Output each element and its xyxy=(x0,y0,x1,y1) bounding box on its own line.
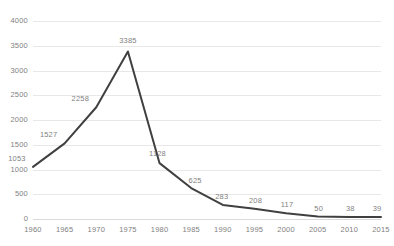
y-tick-label-3500: 3500 xyxy=(0,41,28,50)
y-tick-label-2500: 2500 xyxy=(0,90,28,99)
x-tick-label-1970: 1970 xyxy=(79,225,113,234)
data-label-1990: 283 xyxy=(207,192,237,201)
x-tick-label-1965: 1965 xyxy=(48,225,82,234)
data-label-1995: 208 xyxy=(240,196,270,205)
x-tick-label-2005: 2005 xyxy=(301,225,335,234)
x-tick-label-1975: 1975 xyxy=(111,225,145,234)
x-tick-label-2000: 2000 xyxy=(269,225,303,234)
x-tick-label-1985: 1985 xyxy=(174,225,208,234)
data-label-1975: 3385 xyxy=(113,36,143,45)
y-tick-label-3000: 3000 xyxy=(0,66,28,75)
x-tick-label-2010: 2010 xyxy=(332,225,366,234)
series-line xyxy=(33,21,381,219)
data-label-1985: 625 xyxy=(180,176,210,185)
data-label-2010: 38 xyxy=(335,204,365,213)
y-tick-label-500: 500 xyxy=(0,189,28,198)
data-label-1980: 1128 xyxy=(143,149,173,158)
x-tick-label-1980: 1980 xyxy=(143,225,177,234)
y-tick-label-2000: 2000 xyxy=(0,115,28,124)
x-tick-label-1960: 1960 xyxy=(16,225,50,234)
x-tick-label-1995: 1995 xyxy=(237,225,271,234)
data-label-1960: 1053 xyxy=(2,154,32,163)
y-tick-label-1000: 1000 xyxy=(0,165,28,174)
gridline-0 xyxy=(33,219,381,220)
data-label-2005: 50 xyxy=(304,204,334,213)
y-tick-label-1500: 1500 xyxy=(0,140,28,149)
x-tick-label-2015: 2015 xyxy=(364,225,394,234)
y-tick-label-0: 0 xyxy=(0,214,28,223)
y-tick-label-4000: 4000 xyxy=(0,16,28,25)
data-label-1970: 2258 xyxy=(65,94,95,103)
data-label-1965: 1527 xyxy=(34,130,64,139)
data-label-2015: 39 xyxy=(362,204,392,213)
x-tick-label-1990: 1990 xyxy=(206,225,240,234)
data-label-2000: 117 xyxy=(272,200,302,209)
plot-area: 10531527225833851128625283208117503839 xyxy=(33,21,381,219)
